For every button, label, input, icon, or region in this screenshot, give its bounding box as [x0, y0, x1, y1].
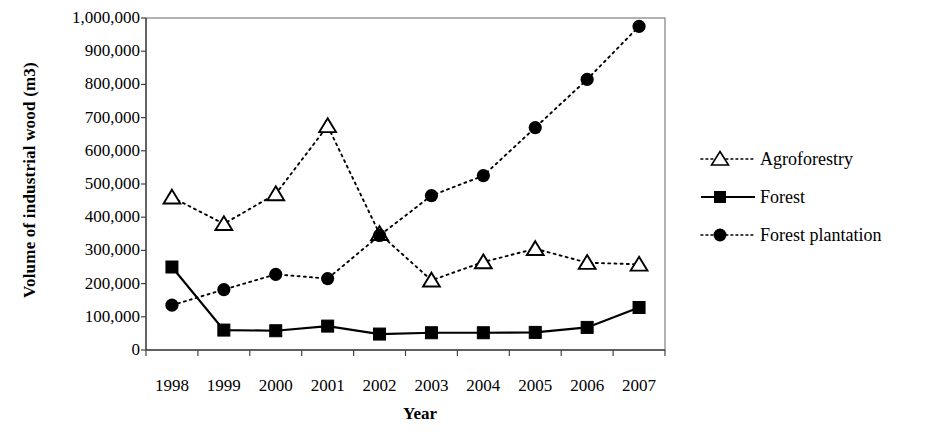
y-axis-tick-label: 100,000 — [85, 307, 140, 327]
data-point[interactable] — [321, 272, 334, 285]
y-axis-tick-label: 200,000 — [85, 274, 140, 294]
x-axis-tick-label: 2003 — [414, 376, 448, 396]
legend-item-forest[interactable]: Forest — [700, 178, 925, 216]
data-point[interactable] — [165, 299, 178, 312]
y-axis-tick-label: 0 — [132, 340, 141, 360]
data-point[interactable] — [581, 321, 593, 333]
x-axis-tick-label: 1998 — [155, 376, 189, 396]
x-axis-tick-labels: 1998199920002001200220032004200520062007 — [0, 376, 925, 400]
y-axis-tick-label: 800,000 — [85, 74, 140, 94]
legend-label: Forest plantation — [756, 225, 881, 246]
data-point[interactable] — [477, 327, 489, 339]
y-axis-tick-label: 700,000 — [85, 108, 140, 128]
data-point[interactable] — [529, 121, 542, 134]
x-axis-tick-label: 2005 — [518, 376, 552, 396]
data-point[interactable] — [477, 169, 490, 182]
data-point[interactable] — [322, 320, 334, 332]
data-point[interactable] — [529, 326, 541, 338]
legend-item-agroforestry[interactable]: Agroforestry — [700, 140, 925, 178]
legend-label: Agroforestry — [756, 149, 853, 170]
data-point[interactable] — [269, 268, 282, 281]
legend-item-forest-plantation[interactable]: Forest plantation — [700, 216, 925, 254]
x-axis-tick-label: 2004 — [466, 376, 500, 396]
x-axis-tick-label: 2002 — [363, 376, 397, 396]
x-axis-tick-label: 1999 — [207, 376, 241, 396]
x-axis-title: Year — [160, 404, 680, 424]
data-point[interactable] — [425, 189, 438, 202]
x-axis-tick-label: 2006 — [570, 376, 604, 396]
data-point[interactable] — [373, 229, 386, 242]
data-point[interactable] — [425, 327, 437, 339]
plot-frame — [146, 18, 665, 350]
x-axis-tick-label: 2001 — [311, 376, 345, 396]
data-point[interactable] — [166, 261, 178, 273]
y-axis-tick-label: 600,000 — [85, 141, 140, 161]
filled-square-marker-icon — [700, 186, 756, 208]
legend-label: Forest — [756, 187, 805, 208]
chart-figure: Volume of industrial wood (m3) 0100,0002… — [0, 0, 925, 436]
filled-circle-marker-icon — [700, 224, 756, 246]
y-axis-tick-labels: 0100,000200,000300,000400,000500,000600,… — [22, 0, 140, 360]
y-axis-tick-label: 500,000 — [85, 174, 140, 194]
data-point[interactable] — [218, 324, 230, 336]
y-axis-tick-label: 1,000,000 — [72, 8, 140, 28]
data-point[interactable] — [633, 302, 645, 314]
chart-legend: Agroforestry Forest Forest plantation — [700, 140, 925, 254]
data-point[interactable] — [374, 328, 386, 340]
y-axis-tick-label: 900,000 — [85, 41, 140, 61]
data-point[interactable] — [632, 20, 645, 33]
data-point[interactable] — [270, 325, 282, 337]
x-axis-tick-label: 2000 — [259, 376, 293, 396]
x-axis-tick-label: 2007 — [622, 376, 656, 396]
y-axis-tick-label: 300,000 — [85, 240, 140, 260]
data-point[interactable] — [217, 283, 230, 296]
open-triangle-marker-icon — [700, 148, 756, 170]
data-point[interactable] — [581, 73, 594, 86]
y-axis-tick-label: 400,000 — [85, 207, 140, 227]
